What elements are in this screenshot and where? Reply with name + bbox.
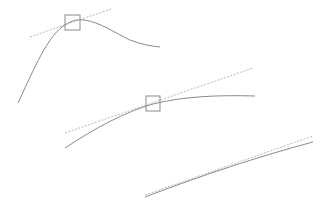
local-linearity-diagram — [0, 0, 330, 210]
background — [0, 0, 330, 210]
